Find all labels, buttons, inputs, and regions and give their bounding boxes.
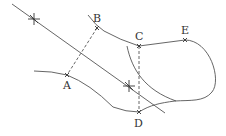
- loop-curve: [139, 40, 216, 112]
- label-e: E: [181, 24, 189, 37]
- label-b: B: [93, 12, 101, 25]
- label-d: D: [134, 117, 143, 130]
- label-a: A: [62, 79, 72, 92]
- diagram-canvas: A B C D E: [0, 0, 226, 136]
- curve-a: [34, 71, 113, 107]
- label-c: C: [135, 30, 143, 43]
- point-marker-b: [95, 26, 99, 30]
- inner-arc: [127, 46, 176, 101]
- dashed-segment-ba: [67, 28, 97, 75]
- curve-d: [113, 107, 139, 112]
